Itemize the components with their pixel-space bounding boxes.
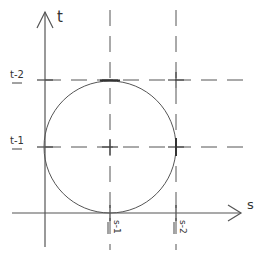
tick-label-t2: t-2 [10,69,24,80]
t-axis-label: t [57,8,63,26]
dashed-guides [45,10,245,250]
s-axis-label: s [247,197,254,212]
tick-label-s1: s-1 [112,220,122,234]
tick-label-s2: s-2 [178,220,188,234]
tick-label-t1: t-1 [10,135,24,146]
diagram-canvas: t s t-2 t-1 s-1 s-2 [0,0,260,258]
